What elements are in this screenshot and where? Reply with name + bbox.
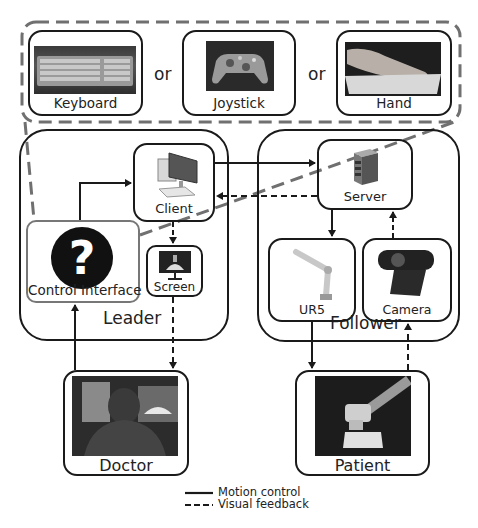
server-node: Server (317, 139, 413, 210)
ur5-node: UR5 (268, 238, 356, 322)
hand-label: Hand (338, 95, 450, 111)
control-interface-label: Control Interface (28, 282, 138, 298)
ur5-label: UR5 (270, 302, 354, 317)
patient-phantom-photo (315, 376, 411, 456)
keyboard-label: Keyboard (30, 95, 141, 111)
patient-node: Patient (295, 370, 430, 476)
camera-label: Camera (364, 302, 450, 317)
leader-title: Leader (103, 308, 161, 328)
doctor-photo (72, 376, 178, 456)
question-mark-icon: ? (51, 227, 113, 289)
hand-photo (345, 42, 441, 96)
robot-arm-icon (290, 246, 340, 302)
gamepad-photo (206, 41, 274, 91)
server-label: Server (319, 189, 411, 204)
input-option-hand: Hand (336, 30, 452, 116)
input-option-joystick: Joystick (182, 30, 296, 116)
doctor-node: Doctor (63, 370, 189, 476)
joystick-label: Joystick (184, 95, 294, 111)
monitor-icon (158, 250, 192, 282)
input-option-keyboard: Keyboard (28, 30, 143, 116)
or-separator-2: or (308, 64, 325, 84)
desktop-computer-icon (155, 149, 201, 199)
doctor-label: Doctor (65, 456, 187, 475)
patient-label: Patient (297, 456, 428, 475)
or-separator-1: or (154, 64, 171, 84)
client-node: Client (133, 143, 215, 222)
server-tower-icon (350, 147, 380, 187)
keyboard-photo (34, 46, 136, 94)
webcam-icon (376, 246, 438, 300)
control-interface-node: ? Control Interface (26, 220, 140, 303)
client-label: Client (135, 201, 213, 216)
camera-node: Camera (362, 238, 452, 322)
legend-visual-feedback: Visual feedback (218, 497, 309, 511)
screen-label: Screen (148, 280, 201, 294)
screen-node: Screen (146, 245, 203, 297)
